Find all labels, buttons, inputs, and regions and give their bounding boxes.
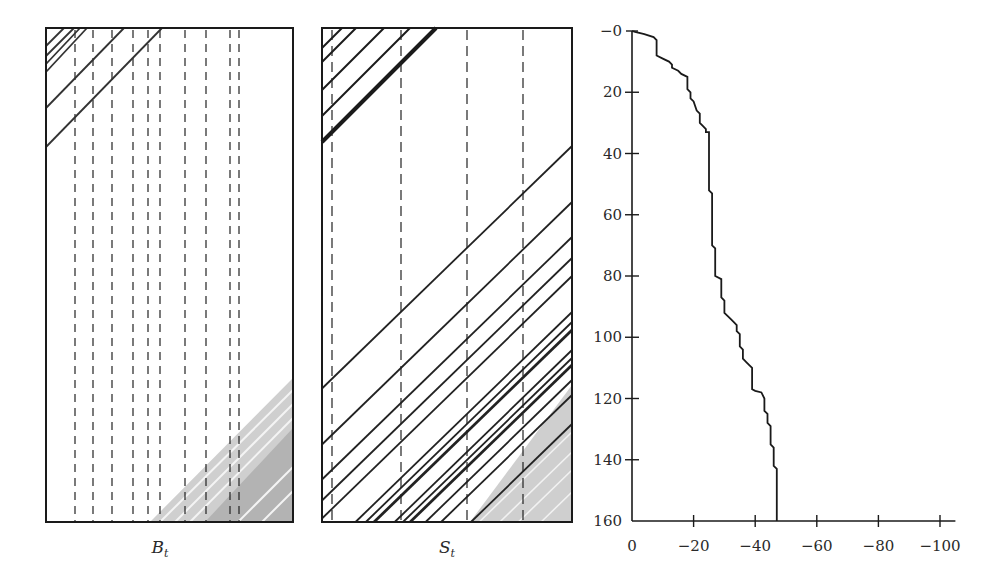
- y-tick-label: 160: [593, 512, 622, 530]
- y-tick-label: 60: [603, 206, 622, 224]
- diagonal-line: [322, 146, 572, 389]
- axes: [632, 31, 955, 521]
- y-tick-label: 40: [603, 145, 622, 163]
- y-tick-label: 100: [593, 328, 622, 346]
- y-tick-label: −0: [600, 22, 622, 40]
- panel-label-s-t: St: [439, 537, 456, 560]
- x-tick-label: −80: [863, 537, 895, 555]
- x-tick-label: −20: [678, 537, 710, 555]
- x-tick-label: −60: [801, 537, 833, 555]
- x-tick-label: −100: [919, 537, 960, 555]
- y-tick-label: 80: [603, 267, 622, 285]
- diagonal-line: [322, 28, 356, 62]
- step-series-line: [632, 31, 777, 521]
- y-tick-label: 140: [593, 451, 622, 469]
- y-tick-label: 120: [593, 390, 622, 408]
- diagonal-line: [46, 28, 124, 108]
- figure-canvas: Bt St 0−20−40−60−80−100 −020406080100120…: [0, 0, 1005, 586]
- y-tick-label: 20: [603, 83, 622, 101]
- step-chart: 0−20−40−60−80−100 −020406080100120140160: [593, 22, 960, 555]
- panel-b-t: Bt: [46, 28, 293, 560]
- panel-s-t: St: [322, 28, 572, 560]
- dashed-lines: [75, 30, 239, 522]
- x-tick-label: −40: [739, 537, 771, 555]
- diagonal-line: [46, 28, 64, 46]
- shaded-region: [150, 378, 293, 522]
- diagonal-line: [322, 202, 572, 445]
- panel-label-b-t: Bt: [151, 537, 170, 560]
- x-tick-label: 0: [627, 537, 637, 555]
- diagonal-line: [322, 28, 410, 116]
- diagonal-trajectories: [46, 28, 162, 147]
